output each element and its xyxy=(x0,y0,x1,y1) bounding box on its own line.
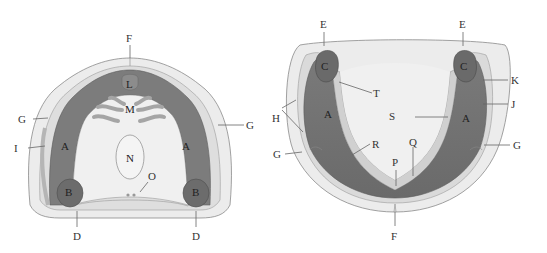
label-K: K xyxy=(511,74,519,86)
label-F-bottom: F xyxy=(391,230,397,242)
label-B-right: B xyxy=(192,186,199,198)
label-D-right: D xyxy=(192,230,200,242)
label-B-left: B xyxy=(65,186,72,198)
label-S: S xyxy=(389,110,395,122)
label-T: T xyxy=(373,87,380,99)
label-A-left: A xyxy=(324,108,332,120)
label-A-right: A xyxy=(462,112,470,124)
label-M: M xyxy=(125,103,135,115)
label-D-left: D xyxy=(73,230,81,242)
mandibular-arch: E E C C T K J H S A A G G R Q P F xyxy=(272,18,521,242)
fovea-palatina-right xyxy=(132,193,135,196)
label-I: I xyxy=(14,142,18,154)
label-L: L xyxy=(126,78,133,90)
label-Q: Q xyxy=(409,136,417,148)
label-R: R xyxy=(372,138,380,150)
label-G-left: G xyxy=(273,148,281,160)
label-H: H xyxy=(272,112,280,124)
label-C-left: C xyxy=(321,60,328,72)
label-C-right: C xyxy=(460,60,467,72)
label-E-right: E xyxy=(459,18,466,30)
fovea-palatina-left xyxy=(126,193,129,196)
denture-anatomy-diagram: F L M N O A A B B G G I D D xyxy=(0,0,547,253)
maxillary-arch: F L M N O A A B B G G I D D xyxy=(14,32,254,242)
label-O: O xyxy=(148,170,156,182)
label-G-left: G xyxy=(18,113,26,125)
label-G-right: G xyxy=(246,119,254,131)
label-G-right: G xyxy=(513,139,521,151)
label-A-right: A xyxy=(182,140,190,152)
label-N: N xyxy=(126,152,134,164)
label-A-left: A xyxy=(61,140,69,152)
label-F-top: F xyxy=(126,32,132,44)
label-E-left: E xyxy=(320,18,327,30)
label-J: J xyxy=(511,98,516,110)
label-P: P xyxy=(392,156,398,168)
